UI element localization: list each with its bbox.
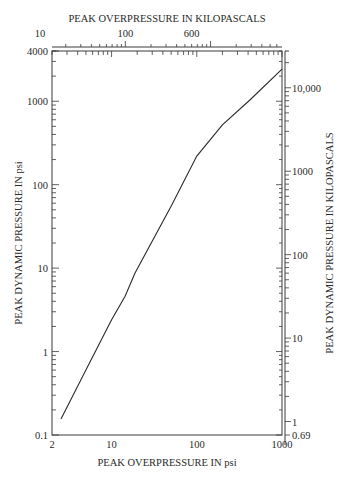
data-curve xyxy=(61,69,282,419)
x-tick-label: 2 xyxy=(49,439,54,450)
x2-tick-label: 600 xyxy=(184,28,200,39)
x2-tick-label: 100 xyxy=(117,28,133,39)
chart: 21010010002101006000.1110100100040000.69… xyxy=(0,0,345,483)
axis-tick-labels: 21010010002101006000.1110100100040000.69… xyxy=(0,28,321,450)
y2-tick-label: 10,000 xyxy=(292,83,321,94)
left-axis-title: PEAK DYNAMIC PRESSURE IN psi xyxy=(13,161,24,324)
y-tick-label: 1000 xyxy=(27,96,48,107)
y-tick-label: 0.1 xyxy=(35,430,48,441)
y-tick-label: 4000 xyxy=(27,46,48,57)
y-tick-label: 100 xyxy=(32,180,48,191)
x-tick-label: 1000 xyxy=(272,439,293,450)
y-tick-label: 10 xyxy=(38,263,49,274)
y2-tick-label: 0.69 xyxy=(292,430,310,441)
y2-tick-label: 10 xyxy=(292,333,303,344)
bottom-axis-title: PEAK OVERPRESSURE IN psi xyxy=(97,457,236,468)
plot-frame xyxy=(52,51,282,435)
top-axis-title: PEAK OVERPRESSURE IN KILOPASCALS xyxy=(68,13,265,24)
x-tick-label: 100 xyxy=(189,439,205,450)
y2-tick-label: 1 xyxy=(292,417,297,428)
right-axis-title: PEAK DYNAMIC PRESSURE IN KILOPASCALS xyxy=(324,132,335,353)
x2-tick-label: 10 xyxy=(35,28,46,39)
x-tick-label: 10 xyxy=(106,439,117,450)
y2-tick-label: 100 xyxy=(292,250,308,261)
y2-tick-label: 1000 xyxy=(292,166,313,177)
axis-ticks xyxy=(52,41,291,435)
y-tick-label: 1 xyxy=(43,347,48,358)
